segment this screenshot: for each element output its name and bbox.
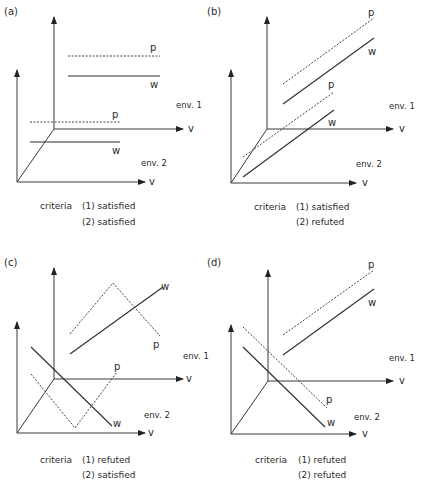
depth-axis: [231, 129, 267, 183]
env1-v-label: v: [399, 375, 405, 386]
env1-label: env. 1: [183, 351, 209, 361]
env1-axes: [54, 17, 183, 129]
panel-label: (a): [4, 6, 18, 17]
env1-p-label: p: [150, 42, 156, 53]
env1-p-label: p: [368, 259, 374, 270]
env2-p-label: p: [112, 109, 118, 120]
panel-d: (d) p w p w v v env. 1 env. 2 criteria (…: [207, 257, 415, 480]
panel-a: (a) p w p w v v env. 1 env. 2 criteria (…: [4, 6, 202, 227]
criterion-2: (2) refuted: [296, 217, 344, 227]
env1-w-label: w: [161, 281, 169, 292]
env1-p-line: [70, 283, 160, 336]
env2-p-line: [243, 92, 334, 157]
env1-w-label: w: [368, 297, 376, 308]
env1-w-line: [70, 287, 163, 354]
criterion-2: (2) refuted: [298, 470, 346, 480]
env2-v-label: v: [362, 177, 368, 188]
env2-axes: [17, 322, 145, 433]
criterion-2: (2) satisfied: [82, 217, 135, 227]
criterion-1: (1) refuted: [82, 455, 130, 465]
env2-p-line: [31, 372, 117, 428]
panel-label: (d): [207, 257, 221, 268]
env2-w-line: [31, 347, 112, 426]
env1-label: env. 1: [389, 101, 415, 111]
env1-v-label: v: [188, 123, 194, 134]
env2-w-label: w: [112, 145, 120, 156]
env2-w-label: w: [327, 417, 335, 428]
env2-p-label: p: [328, 79, 334, 90]
env2-label: env. 2: [144, 410, 170, 420]
env1-w-label: w: [150, 79, 158, 90]
env2-v-label: v: [362, 428, 368, 439]
env1-label: env. 1: [176, 100, 202, 110]
panel-label: (b): [207, 6, 221, 17]
criteria-figure: (a) p w p w v v env. 1 env. 2 criteria (…: [0, 0, 422, 489]
criteria-label: criteria: [255, 455, 287, 465]
criterion-2: (2) satisfied: [82, 470, 135, 480]
env2-w-label: w: [113, 418, 121, 429]
env2-label: env. 2: [356, 159, 382, 169]
criterion-1: (1) satisfied: [82, 201, 135, 211]
panel-label: (c): [4, 257, 17, 268]
env1-axes: [267, 17, 393, 129]
panel-b: (b) p w p w v v env. 1 env. 2 criteria (…: [207, 6, 415, 227]
env2-w-label: w: [328, 117, 336, 128]
depth-axis: [17, 379, 54, 433]
panel-c: (c) p w p w v v env. 1 env. 2 criteria (…: [4, 257, 209, 480]
depth-axis: [231, 381, 268, 434]
env2-p-line: [243, 327, 327, 408]
env2-v-label: v: [149, 176, 155, 187]
env2-label: env. 2: [354, 412, 380, 422]
env1-p-label: p: [368, 7, 374, 18]
env1-p-line: [283, 270, 374, 335]
env2-p-label: p: [326, 394, 332, 405]
criteria-label: criteria: [40, 201, 72, 211]
env2-axes: [231, 70, 356, 183]
env2-w-line: [243, 347, 325, 427]
env2-axes: [17, 70, 145, 182]
env1-w-label: w: [368, 46, 376, 57]
env2-label: env. 2: [141, 158, 167, 168]
criteria-label: criteria: [40, 455, 72, 465]
env1-w-line: [283, 38, 374, 104]
env2-w-line: [243, 110, 334, 177]
env2-v-label: v: [148, 427, 154, 438]
env1-label: env. 1: [389, 353, 415, 363]
env1-w-line: [283, 289, 374, 355]
env2-p-label: p: [114, 361, 120, 372]
env1-p-line: [283, 18, 374, 84]
env2-axes: [231, 325, 356, 434]
criterion-1: (1) satisfied: [296, 202, 349, 212]
env1-axes: [268, 270, 393, 381]
depth-axis: [17, 129, 54, 182]
criteria-label: criteria: [254, 202, 286, 212]
env1-v-label: v: [186, 373, 192, 384]
criterion-1: (1) refuted: [298, 455, 346, 465]
env1-p-label: p: [153, 339, 159, 350]
env1-v-label: v: [399, 123, 405, 134]
